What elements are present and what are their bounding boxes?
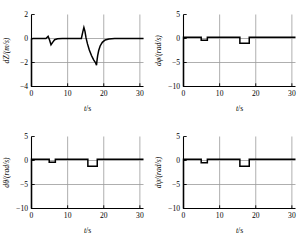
plot-dz: 010203020−2−4t/sdZ/(m/s) <box>0 0 152 122</box>
y-axis-title: dθ/(rad/s) <box>2 157 11 188</box>
y-tick-label: −5 <box>172 180 180 189</box>
x-tick-label: 10 <box>64 89 72 98</box>
axis-spines <box>184 15 296 87</box>
plot-dpsi: 010203050−5−10t/sdψ/(rad/s) <box>152 122 305 244</box>
x-tick-label: 0 <box>182 89 186 98</box>
x-tick-label: 10 <box>216 211 224 220</box>
x-axis-title: t/s <box>236 226 243 235</box>
y-tick-label: 0 <box>176 34 180 43</box>
x-tick-label: 30 <box>136 89 144 98</box>
x-tick-label: 0 <box>30 89 34 98</box>
x-axis-title: t/s <box>84 226 91 235</box>
x-tick-label: 0 <box>30 211 34 220</box>
chart-panel-dz: 010203020−2−4t/sdZ/(m/s) <box>0 0 152 122</box>
x-tick-label: 20 <box>100 211 108 220</box>
axis-spines <box>32 137 144 209</box>
y-tick-label: 0 <box>24 34 28 43</box>
series-line <box>32 159 144 208</box>
x-tick-label: 20 <box>100 89 108 98</box>
y-axis-title: dφ/(rad/s) <box>154 35 163 66</box>
plot-dtheta: 010203050−5−10t/sdθ/(rad/s) <box>0 122 152 244</box>
y-tick-label: 5 <box>24 132 28 141</box>
y-tick-label: −2 <box>20 58 28 67</box>
series-line <box>184 37 296 86</box>
y-tick-label: 0 <box>176 156 180 165</box>
x-tick-label: 30 <box>288 89 296 98</box>
series-line <box>32 27 144 86</box>
y-tick-label: −10 <box>168 204 180 213</box>
chart-panel-dtheta: 010203050−5−10t/sdθ/(rad/s) <box>0 122 152 244</box>
axis-spines <box>184 137 296 209</box>
x-tick-label: 30 <box>136 211 144 220</box>
y-tick-label: −10 <box>168 82 180 91</box>
x-tick-label: 30 <box>288 211 296 220</box>
series-line <box>184 159 296 208</box>
y-tick-label: 2 <box>24 10 28 19</box>
y-tick-label: 5 <box>176 132 180 141</box>
chart-panel-dphi: 010203050−5−10t/sdφ/(rad/s) <box>152 0 305 122</box>
axis-spines <box>32 15 144 87</box>
y-tick-label: 0 <box>24 156 28 165</box>
x-tick-label: 10 <box>64 211 72 220</box>
y-tick-label: 5 <box>176 10 180 19</box>
x-tick-label: 0 <box>182 211 186 220</box>
x-axis-title: t/s <box>84 104 91 113</box>
x-tick-label: 20 <box>252 211 260 220</box>
chart-panel-dpsi: 010203050−5−10t/sdψ/(rad/s) <box>152 122 305 244</box>
plot-dphi: 010203050−5−10t/sdφ/(rad/s) <box>152 0 305 122</box>
x-tick-label: 10 <box>216 89 224 98</box>
y-axis-title: dZ/(m/s) <box>2 37 11 63</box>
y-tick-label: −10 <box>16 204 28 213</box>
y-tick-label: −5 <box>172 58 180 67</box>
figure-panel-grid: 010203020−2−4t/sdZ/(m/s) 010203050−5−10t… <box>0 0 305 244</box>
y-axis-title: dψ/(rad/s) <box>154 156 163 188</box>
x-tick-label: 20 <box>252 89 260 98</box>
y-tick-label: −5 <box>20 180 28 189</box>
x-axis-title: t/s <box>236 104 243 113</box>
y-tick-label: −4 <box>20 82 28 91</box>
